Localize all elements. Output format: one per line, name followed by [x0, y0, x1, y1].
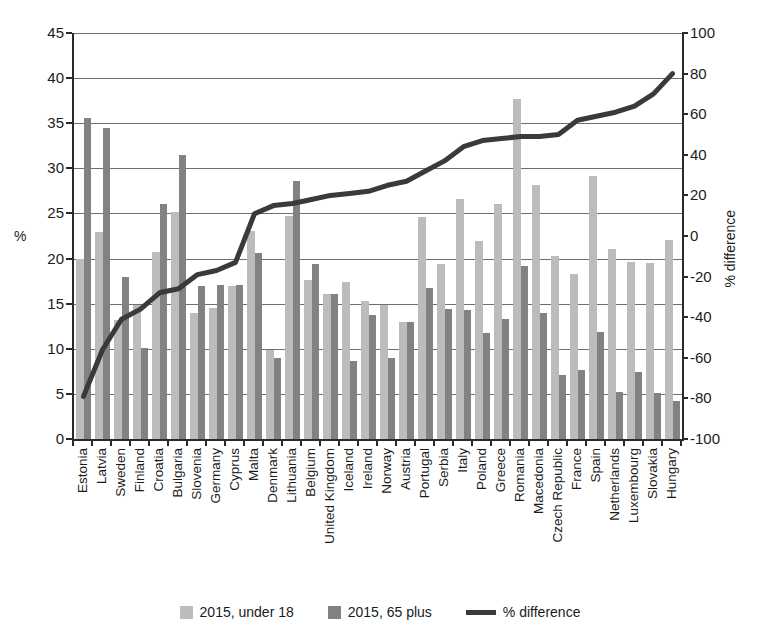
x-tickmark: [661, 439, 663, 446]
x-axis-label: Cyprus: [226, 448, 241, 491]
x-axis-label: Luxembourg: [625, 448, 640, 523]
x-axis-label: Belgium: [302, 448, 317, 497]
x-tickmark: [186, 439, 188, 446]
x-axis-label: Italy: [454, 448, 469, 473]
x-axis-label: Bulgaria: [169, 448, 184, 498]
legend-item: 2015, under 18: [180, 604, 294, 620]
x-tickmark: [471, 439, 473, 446]
x-axis-label-cell: Serbia: [433, 448, 452, 583]
x-axis-label-cell: Netherlands: [604, 448, 623, 583]
x-tickmark: [509, 439, 511, 446]
difference-polyline: [84, 74, 673, 397]
y-tick-label-right: -80: [690, 390, 736, 405]
x-axis-label-cell: Croatia: [148, 448, 167, 583]
x-tickmark: [110, 439, 112, 446]
x-axis-label: Czech Republic: [549, 448, 564, 543]
x-tickmark: [224, 439, 226, 446]
y-tick-label-left: 15: [30, 296, 64, 311]
x-axis-label-cell: Hungary: [661, 448, 680, 583]
x-tickmark: [262, 439, 264, 446]
x-axis-label: Slovakia: [644, 448, 659, 499]
x-axis-label-cell: Denmark: [262, 448, 281, 583]
x-tickmark: [547, 439, 549, 446]
x-tickmark: [642, 439, 644, 446]
y-tick-label-left: 35: [30, 115, 64, 130]
x-axis-label: Malta: [245, 448, 260, 481]
x-axis-label-cell: Macedonia: [528, 448, 547, 583]
y-tick-label-right: -60: [690, 350, 736, 365]
x-axis-label: Estonia: [74, 448, 89, 493]
x-tickmark: [452, 439, 454, 446]
x-axis-label: Greece: [492, 448, 507, 492]
x-axis-label: Lithuania: [283, 448, 298, 503]
legend-swatch-u18: [180, 606, 193, 619]
x-tickmark: [243, 439, 245, 446]
x-tickmark: [72, 439, 74, 446]
x-axis-label-cell: Latvia: [91, 448, 110, 583]
x-axis-label-cell: Czech Republic: [547, 448, 566, 583]
x-tickmark: [395, 439, 397, 446]
x-axis-label-cell: Bulgaria: [167, 448, 186, 583]
y-tick-label-left: 25: [30, 205, 64, 220]
x-tickmark: [623, 439, 625, 446]
y-tick-label-left: 20: [30, 251, 64, 266]
difference-line-series: [74, 33, 682, 439]
y-tick-label-right: 40: [690, 147, 736, 162]
y-tick-label-right: 60: [690, 106, 736, 121]
x-axis-label-cell: Slovenia: [186, 448, 205, 583]
x-axis-label: Germany: [207, 448, 222, 504]
x-tickmark: [490, 439, 492, 446]
x-axis-label-cell: Austria: [395, 448, 414, 583]
y-tick-label-right: 0: [690, 228, 736, 243]
x-tickmark: [338, 439, 340, 446]
x-tickmark: [281, 439, 283, 446]
y-tick-label-right: -20: [690, 269, 736, 284]
x-axis-label: Latvia: [93, 448, 108, 484]
x-axis-label: Spain: [587, 448, 602, 483]
y-tick-label-left: 40: [30, 70, 64, 85]
x-axis-label-cell: Finland: [129, 448, 148, 583]
y-tick-label-left: 45: [30, 25, 64, 40]
x-tickmark: [585, 439, 587, 446]
x-axis-label-cell: Italy: [452, 448, 471, 583]
x-tickmark: [129, 439, 131, 446]
y-axis-label-left: %: [14, 228, 26, 244]
x-tickmark: [91, 439, 93, 446]
y-tick-label-left: 5: [30, 386, 64, 401]
x-axis-label-cell: Germany: [205, 448, 224, 583]
x-tickmark: [566, 439, 568, 446]
x-axis-label: Hungary: [663, 448, 678, 499]
x-tickmark: [300, 439, 302, 446]
x-axis-label-cell: France: [566, 448, 585, 583]
x-tickmark: [357, 439, 359, 446]
y-tick-label-right: 100: [690, 25, 736, 40]
y-tick-label-left: 0: [30, 431, 64, 446]
x-axis-label: Macedonia: [530, 448, 545, 514]
x-axis-label-cell: Cyprus: [224, 448, 243, 583]
x-tickmark: [528, 439, 530, 446]
legend-item: 2015, 65 plus: [328, 604, 432, 620]
legend-item: % difference: [466, 604, 581, 620]
x-axis-label: Iceland: [340, 448, 355, 492]
y-tick-label-right: -40: [690, 309, 736, 324]
x-axis-label: Sweden: [112, 448, 127, 497]
x-axis-label-cell: Ireland: [357, 448, 376, 583]
legend-swatch-line: [466, 610, 496, 615]
legend-swatch-p65: [328, 606, 341, 619]
x-axis-label-cell: Estonia: [72, 448, 91, 583]
x-axis-label-cell: Portugal: [414, 448, 433, 583]
x-axis-label: Austria: [397, 448, 412, 490]
x-axis-label-cell: Iceland: [338, 448, 357, 583]
x-tickmark: [604, 439, 606, 446]
x-axis-label: Slovenia: [188, 448, 203, 500]
x-axis-label-cell: Malta: [243, 448, 262, 583]
x-axis-label: Croatia: [150, 448, 165, 492]
x-tickmark: [376, 439, 378, 446]
legend-label: 2015, 65 plus: [348, 604, 432, 620]
x-axis-label-cell: Belgium: [300, 448, 319, 583]
x-axis-label: Netherlands: [606, 448, 621, 521]
x-axis-label: Denmark: [264, 448, 279, 503]
x-axis-label-cell: Norway: [376, 448, 395, 583]
x-axis-label: Norway: [378, 448, 393, 494]
chart-legend: 2015, under 182015, 65 plus% difference: [0, 604, 760, 620]
